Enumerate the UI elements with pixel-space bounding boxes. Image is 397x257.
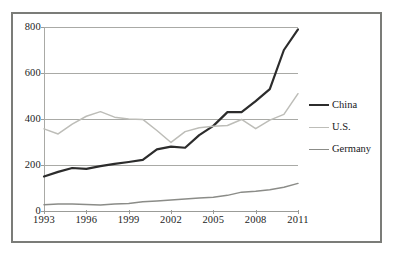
line-chart: 0200400600800 19931996199920022005200820…: [13, 14, 384, 245]
x-tick-mark-1996: [86, 210, 87, 214]
legend-swatch-icon: [309, 149, 329, 150]
legend-entry-us[interactable]: U.S.: [309, 116, 383, 138]
x-tick-mark-1993: [44, 210, 45, 214]
legend-entry-germany[interactable]: Germany: [309, 138, 383, 160]
x-tick-label-2005: 2005: [202, 215, 224, 226]
legend-swatch-icon: [309, 127, 329, 128]
series-lines: [44, 27, 298, 211]
y-tick-label-600: 600: [11, 68, 41, 79]
y-axis-tick-labels: 0200400600800: [13, 27, 41, 211]
x-tick-label-1996: 1996: [75, 215, 97, 226]
x-tick-mark-1999: [129, 210, 130, 214]
chart-legend: ChinaU.S.Germany: [309, 94, 383, 160]
x-tick-label-2002: 2002: [160, 215, 182, 226]
x-tick-label-1993: 1993: [33, 215, 55, 226]
y-tick-label-800: 800: [11, 22, 41, 33]
x-tick-mark-2005: [213, 210, 214, 214]
x-axis-tick-labels: 1993199619992002200520082011: [44, 215, 298, 231]
legend-label: Germany: [332, 144, 371, 155]
figure-frame: 0200400600800 19931996199920022005200820…: [11, 12, 382, 243]
legend-label: China: [332, 100, 357, 111]
series-line-china: [44, 29, 298, 176]
x-tick-label-1999: 1999: [118, 215, 140, 226]
x-tick-mark-2002: [171, 210, 172, 214]
legend-entry-china[interactable]: China: [309, 94, 383, 116]
x-tick-mark-2008: [256, 210, 257, 214]
y-tick-label-400: 400: [11, 114, 41, 125]
series-line-germany: [44, 183, 298, 205]
series-line-us: [44, 94, 298, 143]
legend-swatch-icon: [309, 104, 329, 106]
x-tick-label-2011: 2011: [287, 215, 308, 226]
y-tick-label-200: 200: [11, 160, 41, 171]
plot-area: [44, 27, 298, 211]
x-tick-mark-2011: [298, 210, 299, 214]
caption-sliver: [26, 249, 256, 255]
x-tick-label-2008: 2008: [245, 215, 267, 226]
legend-label: U.S.: [332, 122, 351, 133]
